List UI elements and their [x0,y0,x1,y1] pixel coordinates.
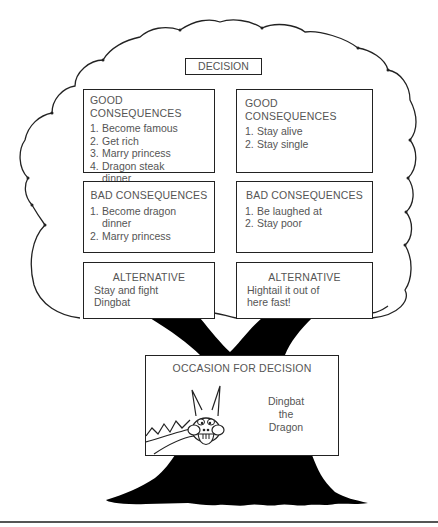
good-consequences-right-title: GOOD CONSEQUENCES [245,97,364,122]
list-item: 1.Become dragon dinner [90,205,208,230]
alternative-left-title: ALTERNATIVE [94,271,204,284]
item-number: 1. [90,205,102,230]
list-item: 2.Stay single [245,138,364,151]
dragon-name-line-2: the [258,408,314,421]
item-number: 2. [90,230,102,243]
list-item: 2.Marry princess [90,230,208,243]
list-item: 1.Become famous [90,122,208,135]
good-consequences-right: GOOD CONSEQUENCES 1.Stay alive 2.Stay si… [236,89,373,173]
bad-consequences-left: BAD CONSEQUENCES 1.Become dragon dinner … [83,181,215,253]
bad-consequences-left-list: 1.Become dragon dinner 2.Marry princess [90,205,208,243]
bad-consequences-left-title: BAD CONSEQUENCES [90,189,208,202]
item-number: 2. [90,135,102,148]
item-number: 2. [245,217,257,230]
item-number: 3. [90,147,102,160]
alternative-right-title: ALTERNATIVE [247,271,362,284]
item-number: 1. [90,122,102,135]
tree-trunk [150,318,312,355]
item-number: 1. [245,125,257,138]
dragon-name: Dingbat the Dragon [258,395,314,434]
alternative-left: ALTERNATIVE Stay and fight Dingbat [83,262,215,319]
dragon-name-line-3: Dragon [258,421,314,434]
item-text: Stay single [257,138,308,151]
decision-label: DECISION [185,58,262,75]
occasion-title: OCCASION FOR DECISION [154,362,330,375]
alternative-left-text: Stay and fight Dingbat [94,284,174,309]
item-text: Become dragon dinner [102,205,187,230]
dragon-name-line-1: Dingbat [258,395,314,408]
list-item: 1.Stay alive [245,125,364,138]
alternative-right-text: Hightail it out of here fast! [247,284,342,309]
item-text: Become famous [102,122,178,135]
list-item: 1.Be laughed at [245,205,364,218]
bad-consequences-right-list: 1.Be laughed at 2.Stay poor [245,205,364,230]
good-consequences-right-list: 1.Stay alive 2.Stay single [245,125,364,150]
item-number: 2. [245,138,257,151]
good-consequences-left-title: GOOD CONSEQUENCES [90,94,208,119]
item-text: Stay alive [257,125,303,138]
bottom-rule [0,521,438,523]
list-item: 2.Get rich [90,135,208,148]
list-item: 2.Stay poor [245,217,364,230]
item-text: Be laughed at [257,205,322,218]
bad-consequences-right-title: BAD CONSEQUENCES [245,189,364,202]
occasion-for-decision: OCCASION FOR DECISION Dingbat the Dragon [145,355,339,456]
decision-title: DECISION [198,60,249,72]
tree-base [106,455,368,506]
item-number: 1. [245,205,257,218]
dragon-icon [146,376,256,456]
bad-consequences-right: BAD CONSEQUENCES 1.Be laughed at 2.Stay … [236,181,373,253]
item-text: Marry princess [102,147,171,160]
good-consequences-left-list: 1.Become famous 2.Get rich 3.Marry princ… [90,122,208,185]
alternative-right: ALTERNATIVE Hightail it out of here fast… [236,262,373,319]
item-text: Stay poor [257,217,302,230]
item-text: Get rich [102,135,139,148]
item-text: Marry princess [102,230,171,243]
good-consequences-left: GOOD CONSEQUENCES 1.Become famous 2.Get … [83,89,215,173]
list-item: 3.Marry princess [90,147,208,160]
